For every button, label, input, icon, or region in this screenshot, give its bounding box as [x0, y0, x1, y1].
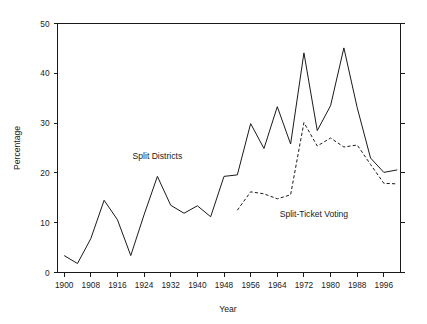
x-tick-label: 1988	[348, 280, 367, 290]
y-tick-label: 10	[40, 218, 50, 228]
x-tick-label: 1972	[295, 280, 314, 290]
series-line-split-ticket-voting	[237, 123, 397, 211]
x-tick-label: 1948	[215, 280, 234, 290]
y-tick-label: 20	[40, 168, 50, 178]
axis-ticks	[54, 24, 405, 277]
x-tick-label: 1996	[375, 280, 394, 290]
y-tick-label: 0	[45, 268, 50, 278]
data-series-group	[64, 48, 397, 264]
x-tick-label: 1900	[55, 280, 74, 290]
x-tick-label: 1964	[268, 280, 287, 290]
series-annotation-split-ticket-voting: Split-Ticket Voting	[280, 209, 349, 219]
x-tick-label: 1924	[135, 280, 154, 290]
chart-axes	[58, 24, 401, 273]
y-tick-label: 50	[40, 19, 50, 29]
x-tick-label: 1956	[241, 280, 260, 290]
y-tick-label: 30	[40, 118, 50, 128]
x-tick-label: 1916	[108, 280, 127, 290]
y-axis-title: Percentage	[12, 126, 22, 170]
x-tick-label: 1940	[188, 280, 207, 290]
x-axis-title: Year	[219, 304, 237, 314]
series-line-split-districts	[64, 48, 397, 264]
y-tick-label: 40	[40, 68, 50, 78]
series-annotation-split-districts: Split Districts	[133, 151, 183, 161]
x-axis-tick-labels: 1900190819161924193219401948195619641972…	[55, 280, 394, 290]
x-tick-label: 1980	[321, 280, 340, 290]
x-tick-label: 1908	[82, 280, 101, 290]
x-tick-label: 1932	[161, 280, 180, 290]
y-axis-tick-labels: 01020304050	[40, 19, 50, 278]
chart-figure: 01020304050 1900190819161924193219401948…	[0, 0, 427, 324]
line-chart: 01020304050 1900190819161924193219401948…	[0, 0, 427, 324]
